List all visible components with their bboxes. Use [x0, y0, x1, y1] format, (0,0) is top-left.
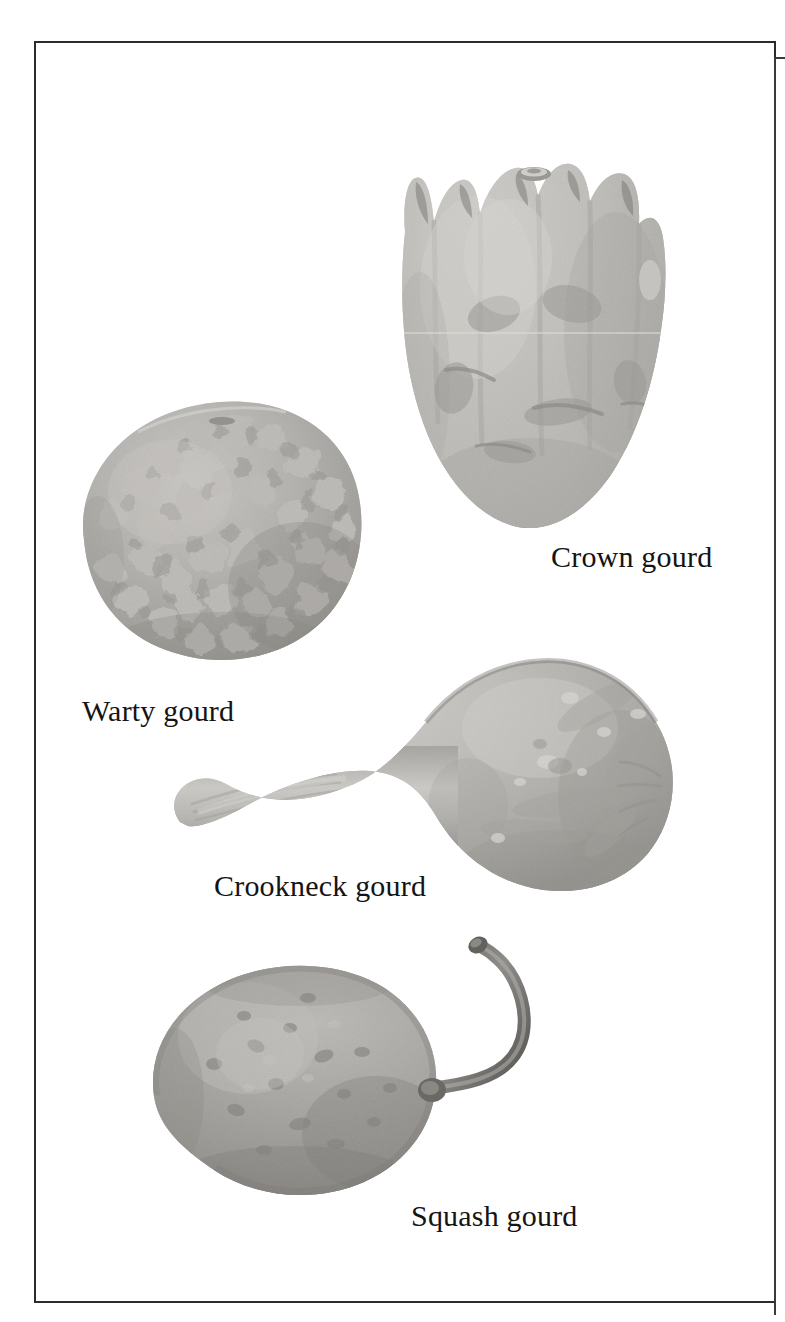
figure-squash-gourd: [148, 928, 618, 1203]
page-gutter-rule: [774, 57, 776, 1315]
figure-crown-gourd: [358, 82, 708, 537]
caption-crookneck-gourd: Crookneck gourd: [214, 869, 426, 902]
caption-squash-gourd: Squash gourd: [411, 1199, 578, 1232]
illustration-plate-page: Crown gourd Warty gourd Crookneck gourd …: [0, 0, 785, 1322]
caption-warty-gourd: Warty gourd: [82, 694, 234, 727]
figure-crookneck-gourd: [168, 626, 688, 891]
page-gutter-rule-cap: [774, 57, 785, 59]
caption-crown-gourd: Crown gourd: [551, 540, 712, 573]
